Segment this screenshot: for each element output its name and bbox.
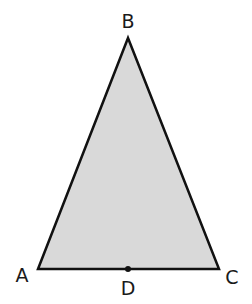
vertex-label-c: C bbox=[225, 266, 238, 288]
point-d-marker bbox=[125, 266, 131, 272]
triangle-abc bbox=[38, 38, 219, 269]
vertex-label-a: A bbox=[16, 264, 29, 286]
point-label-d: D bbox=[121, 277, 136, 299]
triangle-diagram: A B C D bbox=[0, 0, 252, 304]
vertex-label-b: B bbox=[121, 10, 134, 32]
